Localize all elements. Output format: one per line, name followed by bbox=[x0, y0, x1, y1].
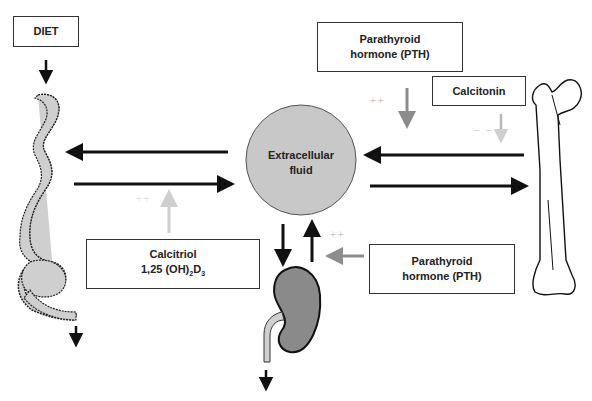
pth-top-box: Parathyroid hormone (PTH) bbox=[317, 22, 463, 72]
ecf-line1: Extracellular bbox=[256, 148, 346, 163]
kidney-icon bbox=[274, 267, 320, 352]
calcitriol-line1: Calcitriol bbox=[149, 247, 196, 262]
pth-bottom-line1: Parathyroid bbox=[411, 254, 472, 269]
calcitriol-gut-modifier: ++ bbox=[136, 193, 152, 204]
calcitriol-box: Calcitriol 1,25 (OH)2D3 bbox=[86, 239, 260, 289]
pth-kidney-modifier: ++ bbox=[330, 229, 346, 240]
pth-top-line1: Parathyroid bbox=[359, 32, 420, 47]
diet-box: DIET bbox=[13, 16, 79, 47]
pth-bottom-box: Parathyroid hormone (PTH) bbox=[369, 244, 515, 294]
pth-top-line2: hormone (PTH) bbox=[350, 47, 429, 62]
calcitriol-line2: 1,25 (OH)2D3 bbox=[141, 262, 205, 281]
diet-label: DIET bbox=[33, 24, 58, 39]
calcitonin-bone-modifier: – – bbox=[474, 124, 494, 135]
pth-bone-modifier: ++ bbox=[370, 95, 386, 106]
calcitonin-box: Calcitonin bbox=[432, 76, 526, 106]
extracellular-fluid-label: Extracellular fluid bbox=[256, 148, 346, 178]
ecf-line2: fluid bbox=[256, 163, 346, 178]
diagram-canvas bbox=[0, 0, 592, 401]
calcitonin-label: Calcitonin bbox=[452, 84, 505, 99]
pth-bottom-line2: hormone (PTH) bbox=[402, 269, 481, 284]
